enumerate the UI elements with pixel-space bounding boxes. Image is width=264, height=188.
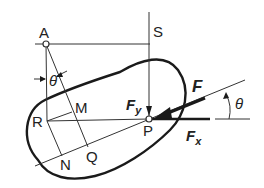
label-r: R bbox=[32, 114, 43, 129]
label-force-fy: Fy bbox=[126, 97, 141, 112]
label-theta-right: θ bbox=[235, 96, 243, 111]
point-a bbox=[43, 41, 49, 47]
label-s: S bbox=[153, 24, 163, 39]
line-r-n bbox=[47, 121, 62, 156]
label-force-fx: Fx bbox=[186, 128, 201, 143]
label-m: M bbox=[75, 100, 88, 115]
force-f-arrowhead bbox=[153, 107, 172, 119]
label-n: N bbox=[60, 157, 71, 172]
fx-main: F bbox=[186, 127, 195, 144]
label-force-f: F bbox=[192, 78, 202, 95]
theta-arrowhead-left bbox=[40, 76, 46, 82]
force-diagram: A S R M N Q P θ θ F Fy Fx bbox=[0, 0, 264, 188]
line-r-m bbox=[47, 112, 72, 121]
label-a: A bbox=[39, 25, 49, 40]
line-r-p bbox=[47, 119, 149, 121]
label-p: P bbox=[143, 123, 153, 138]
fy-sub: y bbox=[135, 104, 141, 116]
label-theta-left: θ bbox=[49, 73, 57, 88]
line-of-action bbox=[35, 80, 245, 166]
fy-main: F bbox=[126, 96, 135, 113]
force-fy-arrowhead bbox=[146, 106, 152, 116]
angle-arc-right-arrowhead bbox=[223, 92, 229, 99]
line-a-r bbox=[46, 44, 47, 121]
fx-sub: x bbox=[195, 135, 201, 147]
label-q: Q bbox=[86, 149, 98, 164]
